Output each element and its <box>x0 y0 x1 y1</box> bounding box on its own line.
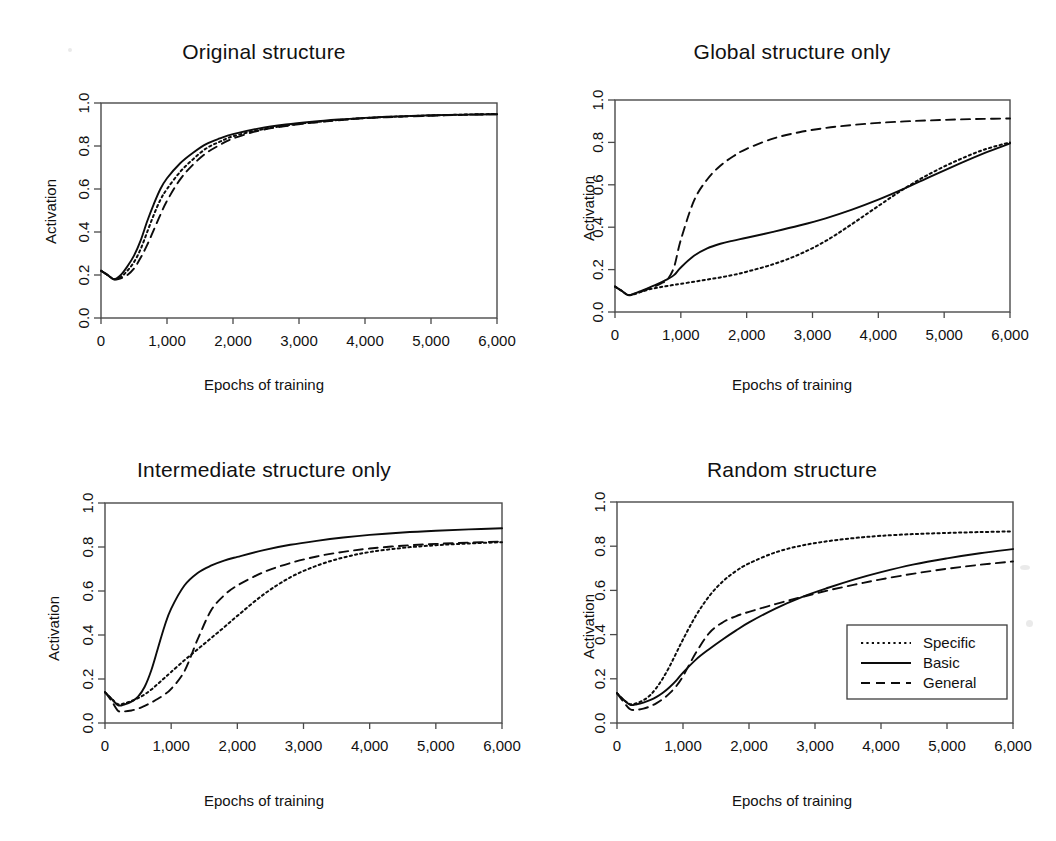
y-tick-label: 0.6 <box>75 179 92 200</box>
figure-canvas: Original structure Activation Epochs of … <box>0 0 1056 841</box>
x-tick-label: 2,000 <box>728 326 766 343</box>
series-basic <box>101 114 497 279</box>
x-tick-label: 4,000 <box>860 326 898 343</box>
y-tick-label: 0.2 <box>589 259 606 280</box>
y-tick-label: 0.6 <box>591 580 608 601</box>
series-basic <box>615 143 1010 295</box>
y-tick-label: 0.4 <box>79 625 96 646</box>
y-tick-label: 0.2 <box>75 265 92 286</box>
x-tick-label: 3,000 <box>285 737 323 754</box>
y-tick-label: 1.0 <box>75 93 92 114</box>
series-specific <box>101 114 497 279</box>
plot-frame <box>615 100 1010 312</box>
series-specific <box>615 142 1010 295</box>
y-tick-label: 0.0 <box>591 713 608 734</box>
y-tick-label: 0.0 <box>75 308 92 329</box>
x-tick-label: 0 <box>101 737 109 754</box>
x-tick-label: 2,000 <box>730 737 768 754</box>
y-tick-label: 0.0 <box>79 713 96 734</box>
x-tick-label: 0 <box>613 737 621 754</box>
panel-original-structure: Original structure Activation Epochs of … <box>0 0 528 420</box>
x-tick-label: 3,000 <box>796 737 834 754</box>
y-tick-label: 0.8 <box>75 136 92 157</box>
x-tick-label: 6,000 <box>478 332 516 349</box>
legend-label-specific: Specific <box>923 634 976 651</box>
x-tick-label: 1,000 <box>148 332 186 349</box>
x-tick-label: 4,000 <box>351 737 389 754</box>
x-tick-label: 5,000 <box>925 326 963 343</box>
x-tick-label: 5,000 <box>412 332 450 349</box>
x-tick-label: 1,000 <box>662 326 700 343</box>
y-tick-label: 1.0 <box>79 493 96 514</box>
y-tick-label: 1.0 <box>589 90 606 111</box>
x-tick-label: 2,000 <box>219 737 257 754</box>
series-general <box>101 114 497 279</box>
panel-intermediate-structure-only: Intermediate structure only Activation E… <box>0 420 528 841</box>
x-tick-label: 3,000 <box>794 326 832 343</box>
x-tick-label: 6,000 <box>994 737 1032 754</box>
plot-area: 01,0002,0003,0004,0005,0006,0000.00.20.4… <box>0 0 528 420</box>
plot-area: 01,0002,0003,0004,0005,0006,0000.00.20.4… <box>528 0 1056 420</box>
x-tick-label: 5,000 <box>417 737 455 754</box>
y-tick-label: 0.4 <box>589 217 606 238</box>
y-tick-label: 0.6 <box>79 581 96 602</box>
y-tick-label: 0.2 <box>79 669 96 690</box>
y-tick-label: 1.0 <box>591 492 608 513</box>
panel-global-structure-only: Global structure only Activation Epochs … <box>528 0 1056 420</box>
y-tick-label: 0.8 <box>591 536 608 557</box>
y-tick-label: 0.8 <box>589 132 606 153</box>
series-general <box>615 118 1010 295</box>
y-tick-label: 0.8 <box>79 537 96 558</box>
plot-frame <box>101 103 497 318</box>
x-tick-label: 4,000 <box>862 737 900 754</box>
y-tick-label: 0.4 <box>75 222 92 243</box>
x-tick-label: 4,000 <box>346 332 384 349</box>
y-tick-label: 0.4 <box>591 624 608 645</box>
plot-frame <box>105 503 502 723</box>
legend-label-general: General <box>923 674 976 691</box>
x-tick-label: 1,000 <box>152 737 190 754</box>
x-tick-label: 0 <box>611 326 619 343</box>
y-tick-label: 0.2 <box>591 668 608 689</box>
x-tick-label: 3,000 <box>280 332 318 349</box>
y-tick-label: 0.0 <box>589 302 606 323</box>
x-tick-label: 5,000 <box>928 737 966 754</box>
plot-area: 01,0002,0003,0004,0005,0006,0000.00.20.4… <box>528 420 1056 841</box>
y-tick-label: 0.6 <box>589 174 606 195</box>
legend-label-basic: Basic <box>923 654 960 671</box>
x-tick-label: 1,000 <box>664 737 702 754</box>
x-tick-label: 0 <box>97 332 105 349</box>
x-tick-label: 6,000 <box>483 737 521 754</box>
plot-area: 01,0002,0003,0004,0005,0006,0000.00.20.4… <box>0 420 528 841</box>
x-tick-label: 2,000 <box>214 332 252 349</box>
panel-random-structure: Random structure Activation Epochs of tr… <box>528 420 1056 841</box>
x-tick-label: 6,000 <box>991 326 1029 343</box>
legend: SpecificBasicGeneral <box>847 625 1007 699</box>
